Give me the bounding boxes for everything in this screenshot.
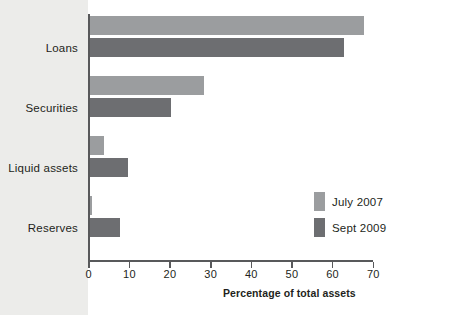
x-axis-line — [88, 260, 373, 262]
legend-swatch-icon-sept-2009 — [314, 218, 325, 237]
x-tick-label-20: 20 — [164, 268, 177, 280]
category-label-loans: Loans — [46, 42, 78, 54]
bar-liquid-assets-sept-2009 — [90, 158, 128, 177]
x-axis-title: Percentage of total assets — [223, 287, 356, 299]
legend-item-july-2007: July 2007 — [314, 192, 386, 211]
legend-swatch-icon-july-2007 — [314, 192, 325, 211]
bar-reserves-sept-2009 — [90, 218, 120, 237]
x-tick-label-60: 60 — [326, 268, 339, 280]
x-tick-label-40: 40 — [245, 268, 258, 280]
bar-securities-july-2007 — [90, 76, 204, 95]
chart-root: 0 10 20 30 40 50 60 70 Loans Securities … — [0, 0, 451, 315]
bar-liquid-assets-july-2007 — [90, 136, 104, 155]
x-tick-label-0: 0 — [85, 268, 91, 280]
category-label-securities: Securities — [26, 102, 79, 114]
x-tick-label-70: 70 — [367, 268, 380, 280]
x-tick-label-50: 50 — [286, 268, 299, 280]
bar-loans-sept-2009 — [90, 38, 344, 57]
legend-label-sept-2009: Sept 2009 — [332, 222, 386, 234]
bar-reserves-july-2007 — [90, 196, 92, 215]
bar-securities-sept-2009 — [90, 98, 171, 117]
legend: July 2007 Sept 2009 — [314, 192, 386, 237]
category-label-liquid-assets: Liquid assets — [8, 162, 78, 174]
x-tick-label-10: 10 — [123, 268, 136, 280]
category-label-reserves: Reserves — [28, 222, 78, 234]
x-tick-label-30: 30 — [204, 268, 217, 280]
bar-loans-july-2007 — [90, 16, 364, 35]
legend-label-july-2007: July 2007 — [332, 196, 383, 208]
legend-item-sept-2009: Sept 2009 — [314, 218, 386, 237]
